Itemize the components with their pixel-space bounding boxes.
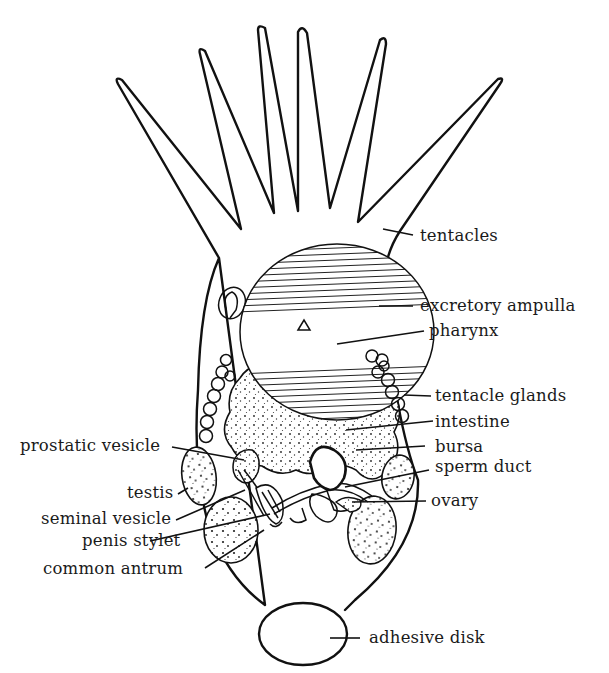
label-adhesive-disk: adhesive disk [369,628,486,647]
label-bursa: bursa [435,437,483,456]
label-testis: testis [127,483,173,502]
label-tentacles: tentacles [420,226,498,245]
label-ovary: ovary [431,491,479,510]
label-tentacle-glands: tentacle glands [435,386,566,405]
label-pharynx: pharynx [429,321,499,340]
adhesive-disk-shape [259,603,347,665]
label-excretory-ampulla: excretory ampulla [420,296,575,315]
anatomy-diagram: tentacles excretory ampulla pharynx tent… [0,0,609,673]
label-prostatic-vesicle: prostatic vesicle [20,436,160,455]
label-intestine: intestine [435,412,510,431]
label-penis-stylet: penis stylet [82,531,181,550]
testis-left-lower [204,497,258,563]
label-common-antrum: common antrum [43,559,183,578]
label-sperm-duct: sperm duct [435,457,532,476]
label-seminal-vesicle: seminal vesicle [41,509,171,528]
